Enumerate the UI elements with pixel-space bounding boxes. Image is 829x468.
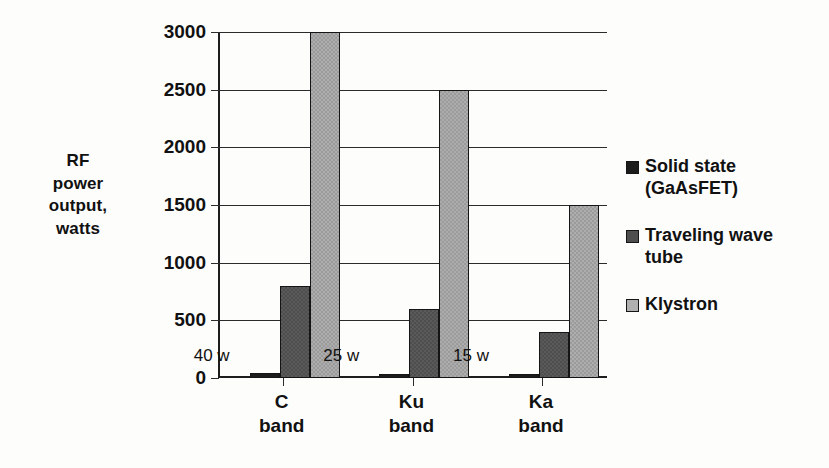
y-axis-title-line-2: power [14,173,142,196]
x-axis-label-line: C [259,390,304,414]
x-axis-tick [283,378,284,386]
y-axis-tick-label: 2000 [164,136,206,158]
x-axis-label-line: band [259,414,304,438]
y-axis-tick [211,263,219,264]
legend-label-line: Klystron [645,294,718,316]
y-axis-tick [211,90,219,91]
data-label: 40 w [194,346,230,366]
x-axis-tick [413,378,414,386]
legend-label: Solid state(GaAsFET) [645,156,738,199]
x-axis-label-line: band [389,414,434,438]
x-axis-label: Kuband [389,390,434,438]
y-axis-title-line-1: RF [14,150,142,173]
bar [539,332,569,378]
bar [569,205,599,378]
legend-label: Traveling wavetube [645,225,773,268]
gridline [218,263,607,264]
bar [409,309,439,378]
y-axis-tick-label: 500 [174,309,206,331]
legend-item[interactable]: Solid state(GaAsFET) [626,156,826,199]
chart-figure: RF power output, watts 05001000150020002… [0,0,829,468]
y-axis-tick-label: 3000 [164,21,206,43]
bar [379,374,409,378]
bar [250,373,280,378]
legend-item[interactable]: Klystron [626,294,826,316]
x-axis-label-line: Ku [389,390,434,414]
legend-item[interactable]: Traveling wavetube [626,225,826,268]
y-axis-tick [211,320,219,321]
gridline [218,32,607,33]
legend: Solid state(GaAsFET)Traveling wavetubeKl… [626,156,826,342]
bar [509,374,539,378]
legend-label-line: Traveling wave [645,225,773,247]
x-axis-label-line: Ka [518,390,563,414]
gridline [218,205,607,206]
legend-label: Klystron [645,294,718,316]
y-axis-tick-label: 1500 [164,194,206,216]
gridline [218,147,607,148]
data-label: 15 w [453,346,489,366]
legend-label-line: tube [645,247,773,269]
y-axis-tick [211,378,219,379]
legend-swatch-icon [626,299,639,312]
legend-swatch-icon [626,161,639,174]
plot-area: 050010001500200025003000 40 w25 w15 w Cb… [218,32,607,378]
y-axis-title-line-4: watts [14,218,142,241]
legend-label-line: Solid state [645,156,738,178]
y-axis-tick [211,147,219,148]
y-axis-title-line-3: output, [14,195,142,218]
x-axis-label: Kaband [518,390,563,438]
x-axis-label-line: band [518,414,563,438]
y-axis-tick-label: 1000 [164,252,206,274]
y-axis-tick [211,32,219,33]
y-axis-tick [211,205,219,206]
x-axis-tick [542,378,543,386]
bar [280,286,310,378]
y-axis-title: RF power output, watts [14,150,142,240]
x-axis-label: Cband [259,390,304,438]
y-axis-tick-label: 2500 [164,79,206,101]
legend-label-line: (GaAsFET) [645,178,738,200]
y-axis-tick-label: 0 [195,367,206,389]
legend-swatch-icon [626,230,639,243]
bar [310,32,340,378]
gridline [218,90,607,91]
bar [439,90,469,378]
data-label: 25 w [323,346,359,366]
